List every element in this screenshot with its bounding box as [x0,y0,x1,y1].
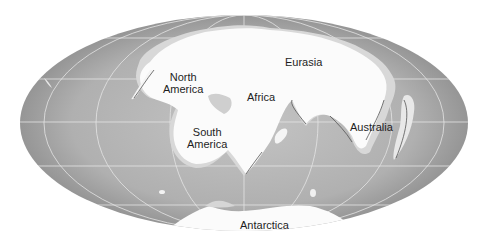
label-africa: Africa [247,91,275,103]
label-line: America [187,138,227,150]
label-line: Africa [247,91,275,103]
world-map [0,0,487,245]
label-line: North [163,71,203,83]
label-line: America [163,83,203,95]
label-australia: Australia [350,121,393,133]
label-north-america: North America [163,71,203,95]
label-line: Eurasia [285,56,322,68]
label-south-america: South America [187,126,227,150]
label-line: Antarctica [240,219,289,231]
label-antarctica: Antarctica [240,219,289,231]
label-eurasia: Eurasia [285,56,322,68]
label-line: South [187,126,227,138]
label-line: Australia [350,121,393,133]
